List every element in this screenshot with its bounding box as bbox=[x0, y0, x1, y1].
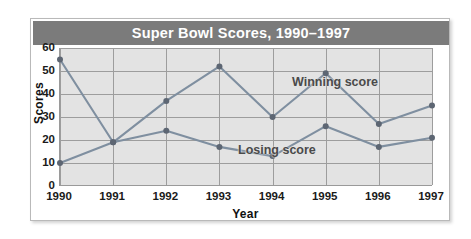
x-axis-title: Year bbox=[59, 207, 432, 221]
chart-figure-frame: Super Bowl Scores, 1990–1997 Scores 0102… bbox=[30, 18, 450, 221]
y-axis-tick-label: 60 bbox=[31, 42, 55, 54]
x-axis-tick-label: 1991 bbox=[88, 191, 136, 203]
y-axis-tick-label: 30 bbox=[31, 111, 55, 123]
y-axis-tick-label: 10 bbox=[31, 157, 55, 169]
data-point bbox=[376, 144, 382, 150]
y-axis-tick-label: 50 bbox=[31, 65, 55, 77]
y-axis-tick-label: 20 bbox=[31, 134, 55, 146]
y-axis-tick-labels: 0102030405060 bbox=[31, 48, 55, 186]
data-point bbox=[270, 114, 276, 120]
plot-area: Winning score Losing score bbox=[59, 48, 432, 186]
data-point bbox=[429, 103, 435, 109]
data-point bbox=[429, 135, 435, 141]
data-point bbox=[57, 160, 63, 166]
annotation-losing-score: Losing score bbox=[238, 143, 316, 157]
x-axis-tick-label: 1992 bbox=[141, 191, 189, 203]
series-plot bbox=[60, 48, 433, 186]
annotation-winning-score: Winning score bbox=[292, 75, 378, 89]
data-point bbox=[216, 63, 222, 69]
data-point bbox=[163, 128, 169, 134]
y-axis-tick-label: 40 bbox=[31, 88, 55, 100]
x-axis-tick-label: 1993 bbox=[194, 191, 242, 203]
x-axis-tick-labels: 19901991199219931994199519961997 bbox=[59, 191, 432, 207]
data-point bbox=[57, 57, 63, 63]
x-axis-tick-label: 1996 bbox=[354, 191, 402, 203]
data-point bbox=[163, 98, 169, 104]
data-point bbox=[216, 144, 222, 150]
data-point bbox=[323, 123, 329, 129]
x-axis-tick-label: 1995 bbox=[301, 191, 349, 203]
series-line-winning-score bbox=[60, 60, 432, 143]
data-point bbox=[110, 139, 116, 145]
x-axis-tick-label: 1997 bbox=[407, 191, 455, 203]
x-axis-tick-label: 1990 bbox=[35, 191, 83, 203]
page-title: Super Bowl Scores, 1990–1997 bbox=[132, 25, 350, 41]
chart-title-bar: Super Bowl Scores, 1990–1997 bbox=[33, 21, 449, 45]
x-axis-tick-label: 1994 bbox=[248, 191, 296, 203]
data-point bbox=[376, 121, 382, 127]
